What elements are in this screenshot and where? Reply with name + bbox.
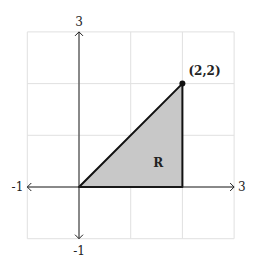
x-min-label: -1 (12, 180, 24, 194)
region-label: R (153, 156, 164, 170)
coordinate-plane: 3 -1 3 -1 (2,2) R (0, 0, 254, 264)
point-2-2 (179, 81, 185, 87)
y-max-label: 3 (75, 15, 83, 29)
point-label: (2,2) (188, 64, 220, 78)
y-min-label: -1 (73, 244, 85, 258)
x-max-label: 3 (238, 180, 246, 194)
